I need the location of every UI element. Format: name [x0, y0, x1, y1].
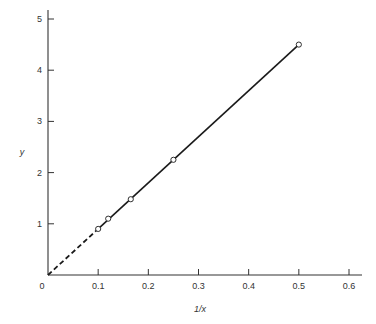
x-tick-label: 0.4 [242, 281, 255, 291]
axes: 00.10.20.30.40.50.612345 [37, 10, 362, 291]
x-tick-label: 0 [39, 281, 44, 291]
data-point-marker [96, 226, 101, 231]
x-tick-label: 0.5 [293, 281, 306, 291]
data-point-marker [296, 42, 301, 47]
y-tick-label: 5 [37, 14, 42, 24]
data-point-marker [171, 157, 176, 162]
y-axis-label: y [19, 147, 25, 157]
data-point-marker [106, 216, 111, 221]
y-tick-label: 3 [37, 116, 42, 126]
y-tick-label: 2 [37, 168, 42, 178]
y-tick-label: 4 [37, 65, 42, 75]
extrapolation-line [48, 229, 98, 275]
x-axis-label: 1/x [194, 304, 207, 314]
data-point-marker [128, 197, 133, 202]
y-tick-label: 1 [37, 219, 42, 229]
x-tick-label: 0.1 [92, 281, 105, 291]
chart: 00.10.20.30.40.50.612345 1/x y [0, 0, 376, 324]
x-tick-label: 0.3 [192, 281, 205, 291]
plot-area [48, 42, 301, 275]
x-tick-label: 0.2 [142, 281, 155, 291]
x-tick-label: 0.6 [343, 281, 356, 291]
fit-line [98, 45, 299, 229]
